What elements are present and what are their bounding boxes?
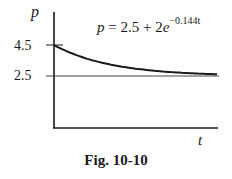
tick-label-4-5: 4.5 xyxy=(14,38,32,54)
equation-rhs: = 2.5 + 2 xyxy=(105,19,163,35)
figure-caption: Fig. 10-10 xyxy=(0,152,232,169)
x-axis-label: t xyxy=(198,132,202,149)
equation-exponent: −0.144t xyxy=(169,15,200,26)
tick-label-2-5: 2.5 xyxy=(14,68,32,84)
figure-10-10: p 4.5 2.5 t p = 2.5 + 2e−0.144t Fig. 10-… xyxy=(0,0,232,179)
decay-curve xyxy=(54,45,217,74)
equation-lhs: p xyxy=(97,19,105,35)
equation-annotation: p = 2.5 + 2e−0.144t xyxy=(97,17,200,36)
y-axis-label: p xyxy=(31,3,39,21)
